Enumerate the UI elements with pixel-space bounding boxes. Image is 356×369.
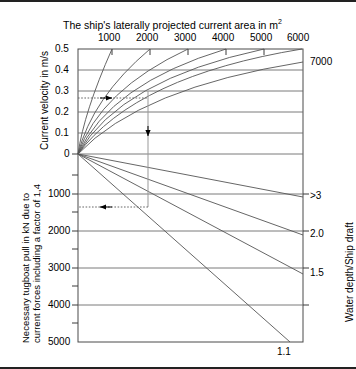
current-area-curves (78, 49, 303, 154)
curve-4000 (78, 49, 226, 154)
line-gt3 (78, 154, 303, 197)
plot-area (0, 2, 356, 369)
right-axis-ticks (303, 194, 309, 305)
depth-ratio-lines (78, 154, 303, 342)
plot-frame (78, 49, 303, 342)
line-1.1 (78, 154, 290, 342)
nomogram-figure: The ship's laterally projected current a… (0, 0, 356, 369)
left-axis-ticks (72, 154, 78, 323)
curve-5000 (78, 49, 264, 154)
curve-6000 (78, 49, 302, 154)
line-2.0 (78, 154, 303, 235)
line-1.5 (78, 154, 303, 274)
gridlines-lower (78, 194, 303, 305)
gridlines-upper (78, 70, 303, 154)
